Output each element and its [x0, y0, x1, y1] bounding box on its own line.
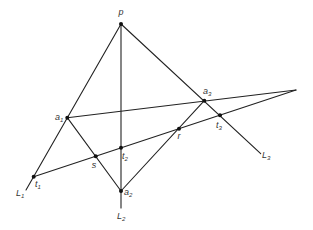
label-L1: L1 — [16, 188, 24, 199]
point-a2 — [119, 189, 123, 193]
point-t3 — [218, 113, 222, 117]
label-L3: L3 — [262, 150, 271, 161]
label-p: p — [117, 7, 123, 17]
label-L2: L2 — [117, 211, 126, 222]
label-a1: a1 — [55, 112, 63, 123]
label-s: s — [92, 160, 97, 170]
point-t2 — [119, 146, 123, 150]
label-t3: t3 — [216, 120, 223, 131]
line-L3 — [121, 24, 261, 154]
label-t2: t2 — [122, 151, 129, 162]
line-L1 — [26, 24, 121, 190]
line-a1-vertex — [67, 90, 296, 118]
label-a2: a2 — [124, 187, 133, 198]
label-a3: a3 — [203, 86, 212, 97]
label-r: r — [178, 131, 182, 141]
label-t1: t1 — [35, 179, 41, 190]
point-s — [94, 154, 98, 158]
segment-a2-a3 — [121, 101, 204, 191]
point-p — [119, 22, 123, 26]
line-t1-vertex — [34, 90, 296, 177]
segment-a1-a2 — [67, 118, 121, 191]
line-end-labels: L1L2L3 — [16, 150, 271, 222]
geometry-diagram: pa1a2a3t1t2t3sr L1L2L3 — [0, 0, 313, 230]
point-a1 — [65, 116, 69, 120]
point-a3 — [202, 99, 206, 103]
